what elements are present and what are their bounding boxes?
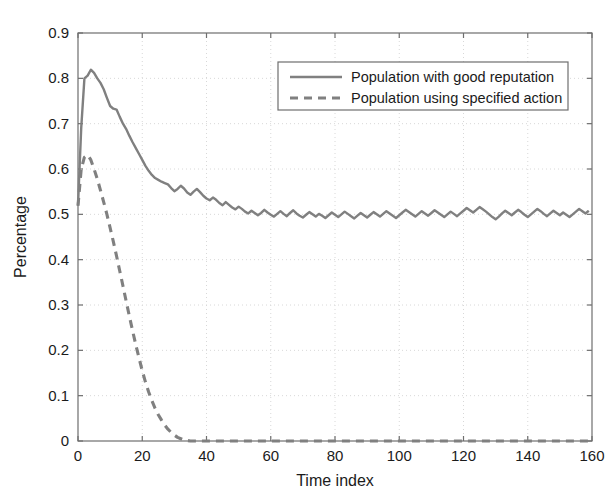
chart-figure: 020406080100120140160 00.10.20.30.40.50.…	[0, 0, 616, 499]
x-tick-label: 140	[515, 447, 540, 464]
x-tick-label: 100	[387, 447, 412, 464]
y-tick-label: 0.7	[48, 115, 69, 132]
y-tick-label: 0.9	[48, 24, 69, 41]
chart-legend: Population with good reputationPopulatio…	[278, 62, 568, 110]
y-tick-label: 0.5	[48, 205, 69, 222]
y-tick-label: 0.6	[48, 160, 69, 177]
legend-label-1: Population with good reputation	[351, 69, 554, 85]
x-axis-title: Time index	[296, 472, 374, 489]
x-tick-label: 80	[327, 447, 344, 464]
y-axis-title: Percentage	[12, 196, 29, 278]
y-tick-label: 0.8	[48, 69, 69, 86]
y-tick-label: 0.3	[48, 296, 69, 313]
x-tick-label: 20	[134, 447, 151, 464]
y-tick-label: 0.1	[48, 387, 69, 404]
legend-label-2: Population using specified action	[351, 90, 562, 106]
x-tick-label: 120	[451, 447, 476, 464]
line-chart: 020406080100120140160 00.10.20.30.40.50.…	[0, 0, 616, 499]
x-tick-label: 0	[74, 447, 82, 464]
x-tick-label: 160	[579, 447, 604, 464]
x-tick-label: 40	[198, 447, 215, 464]
y-tick-label: 0.2	[48, 341, 69, 358]
x-tick-label: 60	[262, 447, 279, 464]
y-tick-label: 0	[61, 432, 69, 449]
y-tick-label: 0.4	[48, 251, 69, 268]
